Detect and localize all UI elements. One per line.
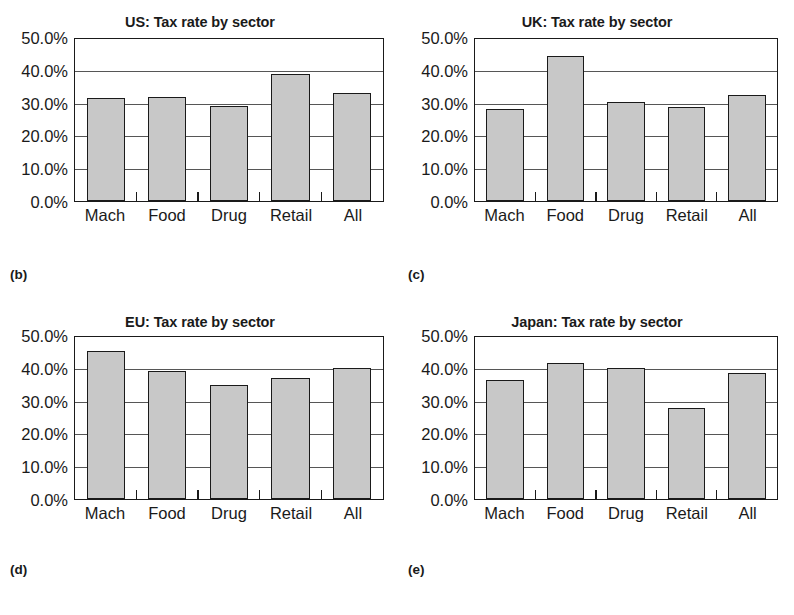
bar-retail [668, 107, 705, 201]
y-tick-label: 50.0% [421, 30, 468, 47]
bar-slot [198, 337, 260, 499]
bar-mach [87, 98, 125, 201]
x-tick-label: All [717, 206, 778, 225]
bar-retail [668, 408, 705, 499]
x-axis-labels-japan: MachFoodDrugRetailAll [474, 504, 778, 523]
y-tick-label: 20.0% [421, 128, 468, 145]
x-tick-label: All [717, 504, 778, 523]
x-tick-label: Mach [474, 504, 535, 523]
bar-food [148, 371, 186, 499]
bar-food [547, 363, 584, 499]
y-tick-label: 20.0% [21, 426, 68, 443]
bar-slot [717, 337, 777, 499]
bar-drug [607, 368, 644, 499]
y-tick-label: 40.0% [21, 361, 68, 378]
chart-title-us: US: Tax rate by sector [0, 0, 400, 30]
bar-mach [87, 351, 125, 499]
y-tick-label: 0.0% [430, 194, 468, 211]
y-tick-label: 0.0% [30, 194, 68, 211]
x-tick-label: Retail [260, 206, 322, 225]
bar-slot [656, 39, 716, 201]
bar-slot [137, 337, 199, 499]
bar-series-uk [475, 39, 777, 201]
x-tick-label: Food [136, 206, 198, 225]
plot-box-uk [474, 38, 778, 202]
bar-slot [321, 337, 383, 499]
y-tick-label: 50.0% [421, 328, 468, 345]
x-tick-label: Food [535, 206, 596, 225]
bar-all [333, 368, 371, 499]
bar-slot [535, 39, 595, 201]
chart-panel-uk: UK: Tax rate by sector 0.0%10.0%20.0%30.… [400, 0, 794, 300]
bar-retail [271, 74, 309, 201]
y-tick-label: 30.0% [21, 393, 68, 410]
plot-area-eu: 0.0%10.0%20.0%30.0%40.0%50.0% MachFoodDr… [0, 336, 400, 536]
bar-slot [321, 39, 383, 201]
plot-box-eu [74, 336, 384, 500]
x-tick-label: Drug [596, 504, 657, 523]
y-tick-label: 0.0% [30, 492, 68, 509]
plot-box-us [74, 38, 384, 202]
bar-slot [717, 39, 777, 201]
x-axis-labels-uk: MachFoodDrugRetailAll [474, 206, 778, 225]
bar-drug [607, 102, 644, 201]
x-tick-label: All [322, 206, 384, 225]
x-tick-label: Drug [596, 206, 657, 225]
x-tick-label: Food [136, 504, 198, 523]
y-tick-label: 40.0% [421, 63, 468, 80]
bar-slot [75, 39, 137, 201]
y-axis-labels-us: 0.0%10.0%20.0%30.0%40.0%50.0% [0, 38, 72, 202]
x-tick-label: Mach [74, 504, 136, 523]
bar-slot [596, 337, 656, 499]
chart-panel-japan: Japan: Tax rate by sector 0.0%10.0%20.0%… [400, 300, 794, 595]
x-tick-label: Retail [656, 206, 717, 225]
y-tick-label: 30.0% [21, 95, 68, 112]
chart-panel-us: US: Tax rate by sector 0.0%10.0%20.0%30.… [0, 0, 400, 300]
bar-food [148, 97, 186, 201]
bar-slot [260, 337, 322, 499]
x-axis-labels-eu: MachFoodDrugRetailAll [74, 504, 384, 523]
y-tick-label: 30.0% [421, 95, 468, 112]
bar-mach [486, 109, 523, 201]
plot-box-japan [474, 336, 778, 500]
bar-slot [198, 39, 260, 201]
bar-slot [656, 337, 716, 499]
bar-retail [271, 378, 309, 499]
bar-slot [475, 337, 535, 499]
y-tick-label: 0.0% [430, 492, 468, 509]
subfigure-label-b: (b) [10, 267, 27, 282]
bar-all [728, 95, 765, 201]
bar-food [547, 56, 584, 201]
bar-all [333, 93, 371, 201]
bar-slot [260, 39, 322, 201]
y-tick-label: 50.0% [21, 328, 68, 345]
chart-title-japan: Japan: Tax rate by sector [400, 300, 794, 330]
bar-slot [75, 337, 137, 499]
bar-slot [596, 39, 656, 201]
y-axis-labels-japan: 0.0%10.0%20.0%30.0%40.0%50.0% [400, 336, 472, 500]
bar-mach [486, 380, 523, 499]
y-tick-label: 10.0% [421, 161, 468, 178]
x-axis-labels-us: MachFoodDrugRetailAll [74, 206, 384, 225]
y-tick-label: 10.0% [21, 459, 68, 476]
x-tick-label: Drug [198, 504, 260, 523]
figure-panel-grid: US: Tax rate by sector 0.0%10.0%20.0%30.… [0, 0, 794, 615]
chart-title-uk: UK: Tax rate by sector [400, 0, 794, 30]
y-axis-labels-uk: 0.0%10.0%20.0%30.0%40.0%50.0% [400, 38, 472, 202]
y-tick-label: 40.0% [21, 63, 68, 80]
y-tick-label: 20.0% [21, 128, 68, 145]
subfigure-label-d: (d) [10, 562, 27, 577]
bar-slot [137, 39, 199, 201]
bar-series-eu [75, 337, 383, 499]
x-tick-label: Drug [198, 206, 260, 225]
x-tick-label: Mach [474, 206, 535, 225]
plot-area-japan: 0.0%10.0%20.0%30.0%40.0%50.0% MachFoodDr… [400, 336, 794, 536]
bar-all [728, 373, 765, 499]
bar-drug [210, 106, 248, 201]
x-tick-label: Food [535, 504, 596, 523]
bar-drug [210, 385, 248, 499]
x-tick-label: Retail [656, 504, 717, 523]
x-tick-label: All [322, 504, 384, 523]
bar-series-us [75, 39, 383, 201]
y-tick-label: 30.0% [421, 393, 468, 410]
